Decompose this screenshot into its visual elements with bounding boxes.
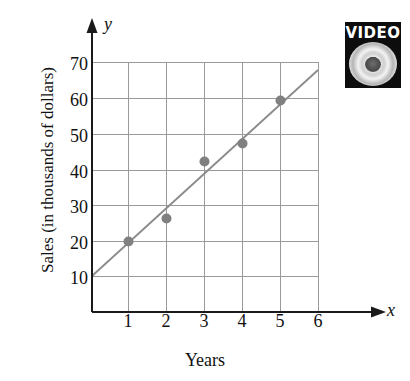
data-point <box>162 214 172 224</box>
y-tick-label: 40 <box>44 163 88 181</box>
data-point <box>238 139 248 149</box>
y-axis-variable-label: y <box>104 14 112 35</box>
y-tick-label: 50 <box>44 127 88 145</box>
x-tick-labels: 1 2 3 4 5 6 <box>0 312 410 338</box>
chart-figure: Sales (in thousands of dollars) <box>0 0 410 381</box>
y-tick-label: 60 <box>44 91 88 109</box>
x-tick-label: 6 <box>303 312 333 330</box>
data-point <box>124 237 134 247</box>
video-icon-label: VIDEO <box>345 24 401 42</box>
y-tick-label: 20 <box>44 234 88 252</box>
x-axis-variable-label: x <box>387 300 395 321</box>
x-axis-title: Years <box>92 350 318 371</box>
x-tick-label: 5 <box>265 312 295 330</box>
y-tick-label: 10 <box>44 269 88 287</box>
video-disc-icon: VIDEO <box>345 22 401 88</box>
video-icon-disc-hub <box>365 57 381 72</box>
data-point <box>276 96 286 106</box>
y-axis-arrow <box>87 18 98 33</box>
x-tick-label: 4 <box>227 312 257 330</box>
y-tick-label: 70 <box>44 55 88 73</box>
x-tick-label: 3 <box>189 312 219 330</box>
x-tick-label: 1 <box>113 312 143 330</box>
data-point <box>200 157 210 167</box>
x-tick-label: 2 <box>151 312 181 330</box>
y-tick-label: 30 <box>44 198 88 216</box>
